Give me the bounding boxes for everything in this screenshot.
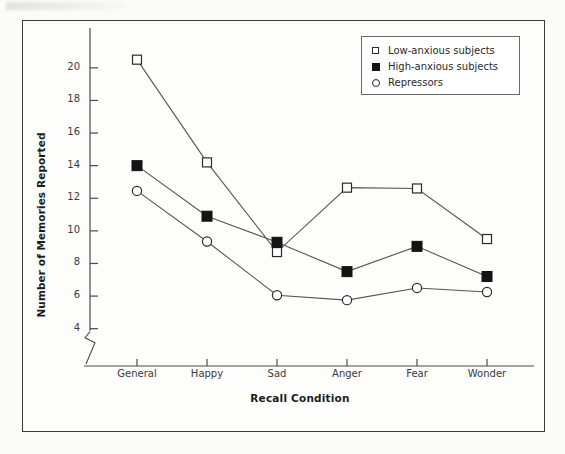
legend-label: High-anxious subjects xyxy=(388,61,498,72)
x-tick-label: General xyxy=(97,368,177,379)
y-tick-label: 18 xyxy=(54,93,80,104)
open-circle-icon xyxy=(372,79,388,87)
figure-canvas: Number of Memories Reported Recall Condi… xyxy=(0,0,565,454)
y-tick-label: 6 xyxy=(54,289,80,300)
filled-square-icon xyxy=(372,63,388,71)
y-tick-label: 16 xyxy=(54,126,80,137)
y-tick-label: 20 xyxy=(54,61,80,72)
x-tick-label: Anger xyxy=(307,368,387,379)
y-tick-label: 12 xyxy=(54,191,80,202)
x-tick-label: Fear xyxy=(377,368,457,379)
legend-label: Low-anxious subjects xyxy=(388,45,495,56)
legend-item-repressors: Repressors xyxy=(372,75,519,90)
y-tick-label: 14 xyxy=(54,159,80,170)
y-tick-label: 8 xyxy=(54,256,80,267)
y-tick-label: 10 xyxy=(54,224,80,235)
x-axis-title: Recall Condition xyxy=(90,392,510,404)
x-tick-label: Sad xyxy=(237,368,317,379)
legend-item-high-anxious: High-anxious subjects xyxy=(372,59,519,74)
open-square-icon xyxy=(372,47,388,54)
y-axis-title: Number of Memories Reported xyxy=(30,130,52,320)
x-tick-label: Wonder xyxy=(447,368,527,379)
legend-label: Repressors xyxy=(388,77,443,88)
legend-box: Low-anxious subjects High-anxious subjec… xyxy=(361,36,520,95)
x-tick-label: Happy xyxy=(167,368,247,379)
y-tick-label: 4 xyxy=(54,322,80,333)
legend-item-low-anxious: Low-anxious subjects xyxy=(372,43,519,58)
y-axis-title-text: Number of Memories Reported xyxy=(35,132,47,317)
scan-artifact xyxy=(6,2,126,10)
